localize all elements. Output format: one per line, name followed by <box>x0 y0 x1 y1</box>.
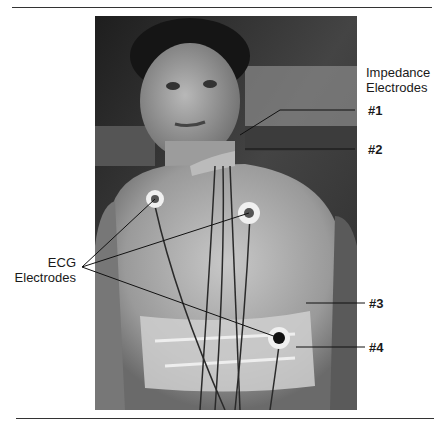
ecg-label-line2: Electrodes <box>14 270 76 285</box>
subject-photo <box>95 16 357 410</box>
impedance-label-line1: Impedance <box>366 65 430 80</box>
electrode-2-label: #2 <box>368 142 382 157</box>
electrode-3-label: #3 <box>369 296 383 311</box>
ecg-electrodes-label: ECG Electrodes <box>14 255 76 285</box>
electrode-1-label: #1 <box>368 103 382 118</box>
top-rule <box>12 7 432 8</box>
bottom-rule <box>16 418 434 419</box>
impedance-label-line2: Electrodes <box>366 80 430 95</box>
impedance-electrodes-label: Impedance Electrodes <box>366 65 430 95</box>
ecg-label-line1: ECG <box>14 255 76 270</box>
electrode-4-label: #4 <box>369 340 383 355</box>
